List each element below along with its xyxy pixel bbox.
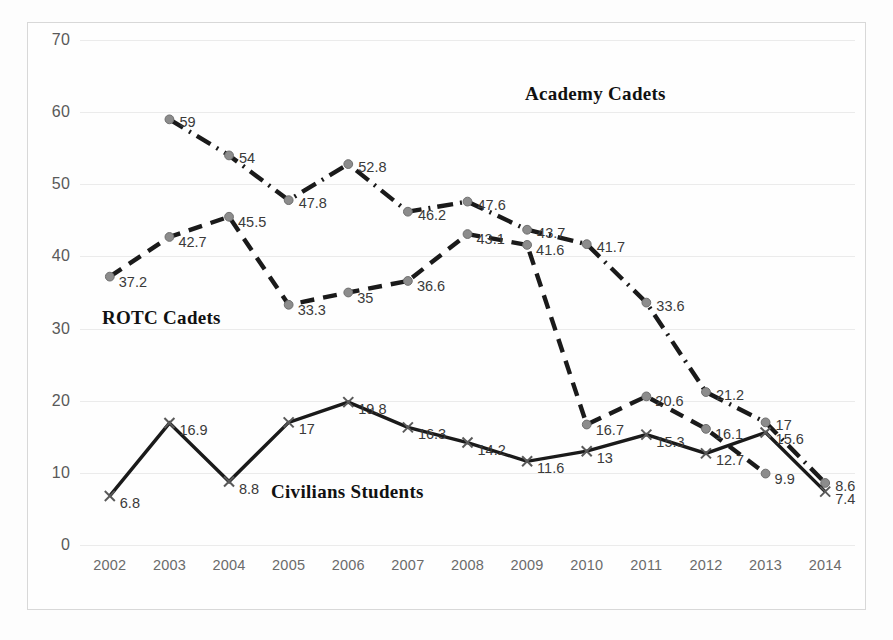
y-axis-tick-label: 60 xyxy=(52,103,70,121)
data-label: 12.7 xyxy=(716,452,744,468)
data-label: 41.6 xyxy=(536,242,564,258)
data-point-marker xyxy=(403,207,412,216)
data-point-marker xyxy=(164,418,174,428)
y-axis-tick-label: 50 xyxy=(52,175,70,193)
data-label: 43.1 xyxy=(477,231,505,247)
data-point-marker xyxy=(761,418,770,427)
data-label: 33.6 xyxy=(656,298,684,314)
data-label: 11.6 xyxy=(537,460,564,476)
data-point-marker xyxy=(463,197,472,206)
data-point-marker xyxy=(105,491,115,501)
gridline xyxy=(80,545,855,546)
data-label: 35 xyxy=(357,290,373,306)
data-label: 52.8 xyxy=(358,159,386,175)
data-label: 36.6 xyxy=(417,278,445,294)
data-point-marker xyxy=(284,300,293,309)
data-label: 14.2 xyxy=(478,442,506,458)
data-point-marker xyxy=(344,288,353,297)
data-label: 16.1 xyxy=(715,426,743,442)
data-point-marker xyxy=(761,469,770,478)
data-point-marker xyxy=(344,160,353,169)
data-point-marker xyxy=(642,298,651,307)
x-axis-tick-label: 2012 xyxy=(689,557,722,573)
data-label: 46.2 xyxy=(418,207,446,223)
x-axis-tick-label: 2007 xyxy=(391,557,424,573)
series-name-label: ROTC Cadets xyxy=(102,307,221,329)
data-point-marker xyxy=(523,225,532,234)
data-label: 17 xyxy=(299,421,315,437)
data-label: 8.8 xyxy=(239,481,259,497)
data-point-marker xyxy=(225,151,234,160)
plot-area: 010203040506070 200220032004200520062007… xyxy=(80,40,855,545)
data-point-marker xyxy=(165,115,174,124)
x-axis-tick-label: 2009 xyxy=(511,557,544,573)
data-point-marker xyxy=(702,388,711,397)
data-label: 47.8 xyxy=(299,195,327,211)
data-point-marker xyxy=(523,240,532,249)
data-label: 21.2 xyxy=(716,387,744,403)
data-point-marker xyxy=(224,477,234,487)
data-label: 6.8 xyxy=(120,495,140,511)
data-label: 15.6 xyxy=(776,431,804,447)
series-line-2 xyxy=(110,402,825,496)
data-label: 9.9 xyxy=(775,471,795,487)
data-label: 42.7 xyxy=(178,234,206,250)
data-label: 7.4 xyxy=(835,491,855,507)
data-point-marker xyxy=(702,424,711,433)
y-axis-tick-label: 20 xyxy=(52,392,70,410)
x-axis-tick-label: 2008 xyxy=(451,557,484,573)
series-lines-layer xyxy=(80,40,855,545)
y-axis-tick-label: 40 xyxy=(52,247,70,265)
data-label: 54 xyxy=(239,150,255,166)
x-axis-tick-label: 2002 xyxy=(93,557,126,573)
data-point-marker xyxy=(820,487,830,497)
x-axis-tick-label: 2014 xyxy=(809,557,842,573)
data-label: 41.7 xyxy=(597,239,625,255)
y-axis-tick-label: 70 xyxy=(52,31,70,49)
data-point-marker xyxy=(284,196,293,205)
data-label: 33.3 xyxy=(298,302,326,318)
data-point-marker xyxy=(403,277,412,286)
y-axis-tick-label: 0 xyxy=(61,536,70,554)
data-label: 16.7 xyxy=(596,422,624,438)
data-point-marker xyxy=(582,420,591,429)
data-label: 37.2 xyxy=(119,274,147,290)
y-axis-tick-label: 10 xyxy=(52,464,70,482)
data-label: 16.9 xyxy=(179,422,207,438)
x-axis-tick-label: 2005 xyxy=(272,557,305,573)
data-label: 59 xyxy=(179,114,195,130)
x-axis-tick-label: 2011 xyxy=(630,557,662,573)
data-label: 47.6 xyxy=(478,197,506,213)
x-axis-tick-label: 2013 xyxy=(749,557,782,573)
data-label: 15.3 xyxy=(656,434,684,450)
series-name-label: Academy Cadets xyxy=(525,83,666,105)
series-name-label: Civilians Students xyxy=(271,481,424,503)
data-label: 45.5 xyxy=(238,214,266,230)
x-axis-tick-label: 2004 xyxy=(213,557,246,573)
data-point-marker xyxy=(582,240,591,249)
data-point-marker xyxy=(463,230,472,239)
data-point-marker xyxy=(642,392,651,401)
x-axis-tick-label: 2003 xyxy=(153,557,186,573)
data-label: 43.7 xyxy=(537,225,565,241)
data-label: 13 xyxy=(597,450,613,466)
x-axis-tick-label: 2006 xyxy=(332,557,365,573)
data-point-marker xyxy=(105,272,114,281)
data-point-marker xyxy=(821,479,830,488)
data-label: 19.8 xyxy=(358,401,386,417)
chart-root: 010203040506070 200220032004200520062007… xyxy=(0,0,893,640)
data-label: 16.3 xyxy=(418,426,446,442)
data-point-marker xyxy=(165,233,174,242)
data-point-marker xyxy=(225,212,234,221)
y-axis-tick-label: 30 xyxy=(52,320,70,338)
x-axis-tick-label: 2010 xyxy=(570,557,603,573)
data-label: 20.6 xyxy=(655,393,683,409)
